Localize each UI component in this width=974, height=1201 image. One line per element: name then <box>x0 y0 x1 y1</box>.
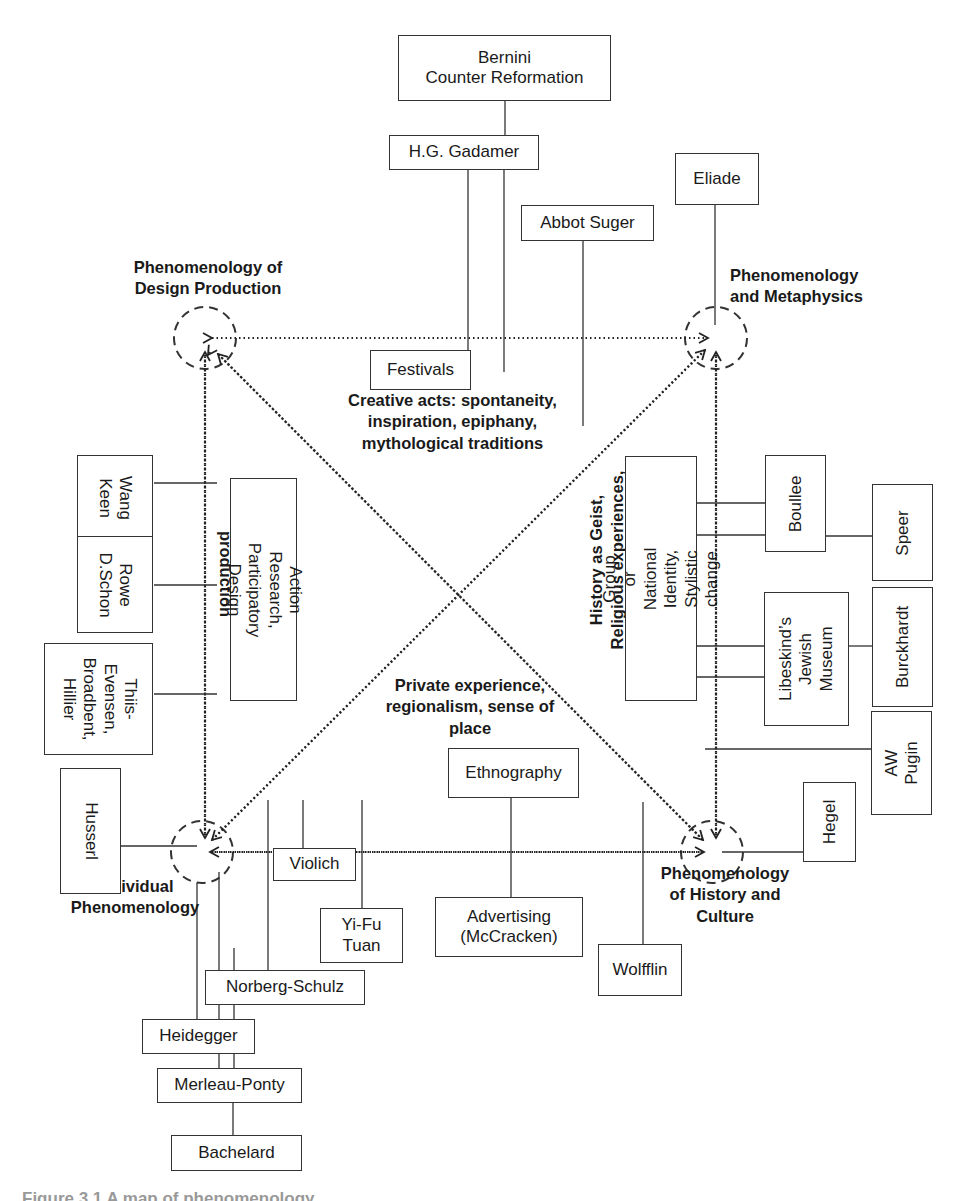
node-label-metaphysics: Phenomenology and Metaphysics <box>730 265 910 308</box>
box-bernini: Bernini Counter Reformation <box>398 35 611 101</box>
box-action-research: Action Research, Participatory Design <box>230 478 297 701</box>
edge-label-private-experience: Private experience, regionalism, sense o… <box>355 675 585 739</box>
box-aw-pugin: AW Pugin <box>871 711 932 815</box>
box-group-identity: Group or National Identity, Stylistic ch… <box>625 456 697 701</box>
box-husserl: Husserl <box>60 768 121 894</box>
box-boullee: Boullee <box>765 455 826 552</box>
box-ethnography: Ethnography <box>448 748 579 798</box>
box-eliade: Eliade <box>675 153 759 205</box>
box-violich: Violich <box>273 848 356 881</box>
edge-label-creative-acts: Creative acts: spontaneity, inspiration,… <box>305 390 600 454</box>
box-heidegger: Heidegger <box>142 1019 255 1054</box>
box-gadamer: H.G. Gadamer <box>389 135 539 170</box>
box-hegel: Hegel <box>803 782 856 862</box>
box-merleau-ponty: Merleau-Ponty <box>157 1068 302 1103</box>
box-wang-keen: Wang Keen <box>77 455 153 541</box>
box-libeskind: Libeskind’s Jewish Museum <box>764 592 849 726</box>
box-abbot-suger: Abbot Suger <box>521 205 654 241</box>
node-label-history-culture: Phenomenology of History and Culture <box>640 863 810 927</box>
box-wolfflin: Wolfflin <box>598 944 682 996</box>
box-festivals: Festivals <box>370 350 471 390</box>
box-advertising: Advertising (McCracken) <box>435 897 583 957</box>
box-rowe-schon: Rowe D.Schon <box>77 536 153 633</box>
node-label-design-production: Phenomenology of Design Production <box>118 257 298 300</box>
box-thiis-evensen: Thiis- Evensen, Broadbent, Hillier <box>44 643 153 755</box>
box-bachelard: Bachelard <box>171 1135 302 1171</box>
box-burckhardt: Burckhardt <box>872 587 933 707</box>
figure-caption: Figure 3.1 A map of phenomenology <box>22 1189 315 1201</box>
box-yi-fu-tuan: Yi-Fu Tuan <box>320 908 403 963</box>
box-norberg-schulz: Norberg-Schulz <box>205 970 365 1005</box>
box-speer: Speer <box>872 484 933 581</box>
